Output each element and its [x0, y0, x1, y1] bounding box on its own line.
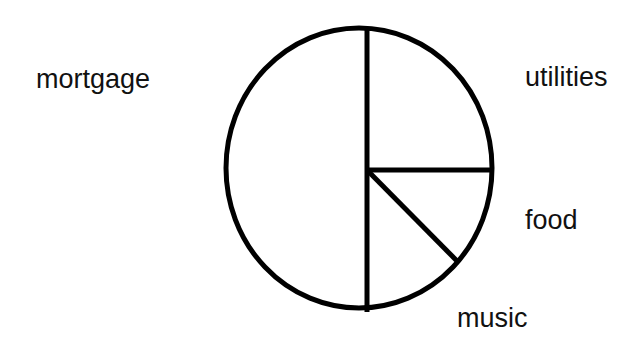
label-food: food [525, 207, 578, 234]
label-utilities: utilities [525, 64, 608, 91]
pie-chart [0, 0, 644, 341]
label-music: music [457, 305, 528, 332]
divider-food-music [367, 170, 459, 263]
label-mortgage: mortgage [36, 66, 150, 93]
